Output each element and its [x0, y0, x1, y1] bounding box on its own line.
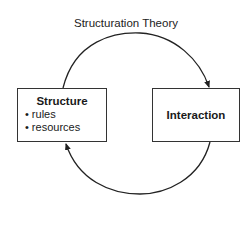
- interaction-label: Interaction: [167, 109, 226, 121]
- arrow-structure-to-interaction: [63, 33, 209, 88]
- structure-items: rules resources: [25, 108, 106, 133]
- structure-label: Structure: [18, 95, 106, 107]
- structure-box: Structure rules resources: [17, 88, 107, 142]
- interaction-box: Interaction: [152, 88, 240, 142]
- arrow-interaction-to-structure: [66, 142, 210, 194]
- structure-item-rules: rules: [25, 108, 106, 121]
- structure-item-resources: resources: [25, 121, 106, 134]
